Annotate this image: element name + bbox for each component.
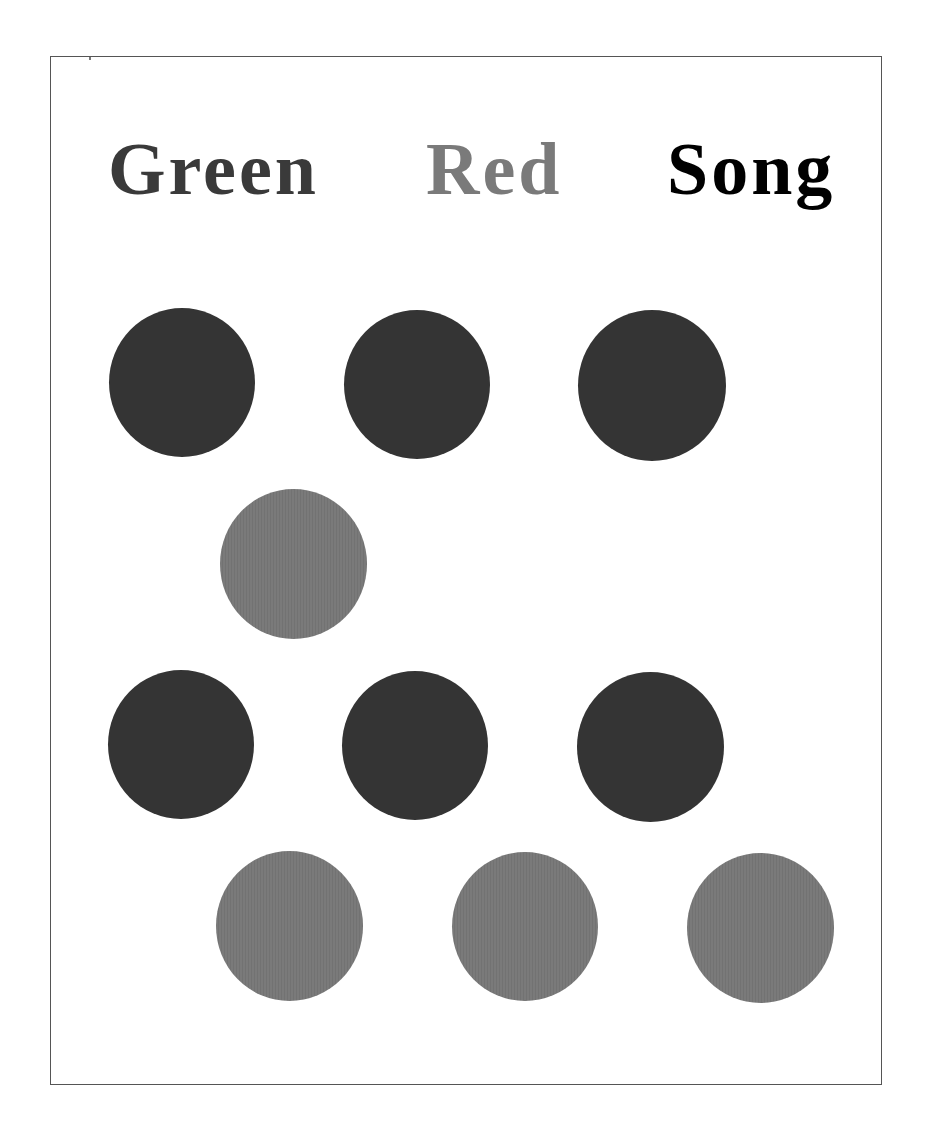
word-green: Green — [108, 124, 319, 214]
circle-row2-col1 — [220, 489, 367, 639]
circle-row1-col3 — [578, 310, 726, 461]
circle-row3-col2 — [342, 671, 488, 820]
word-song: Song — [667, 124, 835, 214]
circle-row1-col2 — [344, 310, 490, 459]
word-red: Red — [426, 124, 562, 214]
circle-row4-col3 — [687, 853, 834, 1003]
circle-row3-col3 — [577, 672, 724, 822]
circle-row4-col1 — [216, 851, 363, 1001]
circle-row3-col1 — [108, 670, 254, 819]
circle-row1-col1 — [109, 308, 255, 457]
circle-row4-col2 — [452, 852, 598, 1001]
frame-tick-mark — [89, 57, 91, 60]
